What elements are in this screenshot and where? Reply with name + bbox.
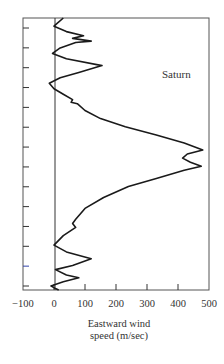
y-axis-ticks <box>23 28 29 286</box>
x-tick-label: 400 <box>170 298 186 309</box>
x-tick-label: 500 <box>201 298 217 309</box>
plot-frame <box>23 18 209 290</box>
x-axis-title: Eastward wind speed (m/sec) <box>88 318 151 342</box>
planet-label: Saturn <box>162 68 191 80</box>
x-axis-ticks <box>54 284 178 290</box>
x-axis-title-line1: Eastward wind <box>88 318 151 330</box>
wind-profile-chart <box>0 0 224 364</box>
x-tick-label: 0 <box>51 298 56 309</box>
x-tick-label: 200 <box>108 298 124 309</box>
x-tick-label: 100 <box>77 298 93 309</box>
x-axis-title-line2: speed (m/sec) <box>88 330 151 342</box>
x-tick-label: 300 <box>139 298 155 309</box>
x-tick-label: −100 <box>12 298 34 309</box>
wind-speed-curve <box>49 18 203 290</box>
